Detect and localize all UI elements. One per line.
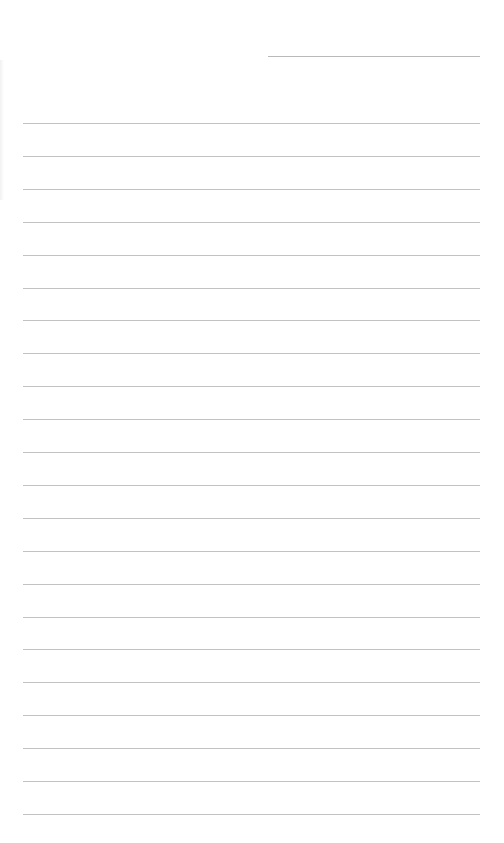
ruled-line: [23, 617, 480, 618]
ruled-line: [23, 715, 480, 716]
page-edge-shadow: [0, 60, 4, 200]
ruled-line: [23, 419, 480, 420]
ruled-line: [23, 255, 480, 256]
header-rule: [268, 56, 480, 57]
ruled-line: [23, 814, 480, 815]
ruled-line: [23, 748, 480, 749]
ruled-line: [23, 189, 480, 190]
ruled-line: [23, 320, 480, 321]
ruled-line: [23, 485, 480, 486]
ruled-line: [23, 123, 480, 124]
ruled-line: [23, 682, 480, 683]
ruled-line: [23, 781, 480, 782]
ruled-line: [23, 386, 480, 387]
ruled-line: [23, 551, 480, 552]
ruled-line: [23, 222, 480, 223]
ruled-line: [23, 353, 480, 354]
ruled-line: [23, 288, 480, 289]
ruled-line: [23, 518, 480, 519]
ruled-line: [23, 156, 480, 157]
ruled-line: [23, 452, 480, 453]
ruled-line: [23, 649, 480, 650]
ruled-line: [23, 584, 480, 585]
